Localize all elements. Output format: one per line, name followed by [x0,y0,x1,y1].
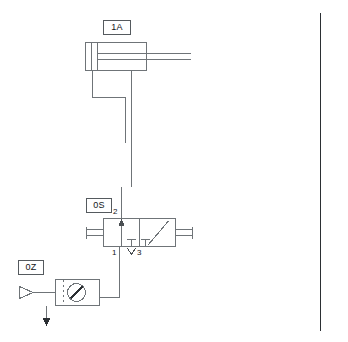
valve-body [104,219,176,247]
valve-right-position-flow [148,221,169,245]
pipe-valve-port1-to-service-unit [100,247,120,298]
service-unit-drain-arrow [42,318,50,327]
valve-port-label-2: 2 [113,208,117,216]
valve-port-label-3: 3 [137,249,141,257]
air-supply-triangle [20,287,34,299]
cylinder-piston-rod [98,54,191,60]
pressure-gauge-needle [71,287,83,299]
label-service-unit-tag: 0Z [18,260,44,275]
valve-right-actuator [176,227,193,239]
label-valve-tag: 0S [86,198,112,213]
valve-left-blocked-port [127,240,136,247]
label-cylinder-tag: 1A [103,20,131,35]
circuit-drawing [0,0,348,342]
pneumatic-circuit-diagram: 1A 0S 0Z 2 1 3 [0,0,348,342]
cylinder-end-cap [92,43,98,71]
valve-right-blocked-port [141,240,150,247]
valve-port-label-1: 1 [112,249,116,257]
valve-exhaust-arrow [128,249,136,255]
valve-left-arrowhead [118,219,124,227]
pipe-cylinder-to-valve [93,98,126,143]
cylinder-body [86,43,147,71]
valve-left-actuator [87,227,104,239]
